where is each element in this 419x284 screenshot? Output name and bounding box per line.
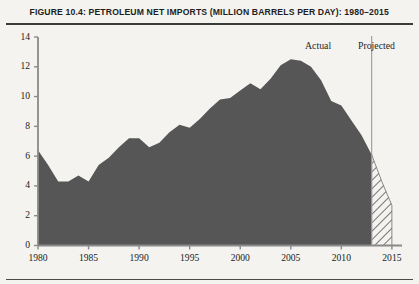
series-actual-area: [38, 59, 372, 245]
x-axis-tick-label: 1980: [18, 252, 58, 263]
y-axis-tick-label: 2: [4, 209, 30, 220]
x-axis-tick-label: 1985: [69, 252, 109, 263]
projected-region-label: Projected: [358, 40, 395, 51]
figure-container: FIGURE 10.4: PETROLEUM NET IMPORTS (MILL…: [0, 0, 419, 284]
y-axis-tick-label: 0: [4, 239, 30, 250]
actual-region-label: Actual: [305, 40, 331, 51]
y-axis-tick-label: 14: [4, 31, 30, 42]
series-projected-area: [372, 155, 392, 246]
y-axis-tick-label: 10: [4, 90, 30, 101]
x-axis-tick-label: 2005: [271, 252, 311, 263]
y-axis-tick-label: 6: [4, 150, 30, 161]
chart-series-group: [38, 59, 392, 245]
x-axis-tick-label: 2000: [220, 252, 260, 263]
x-axis-tick-label: 1995: [170, 252, 210, 263]
x-axis-tick-label: 2010: [321, 252, 361, 263]
x-axis-tick-label: 2015: [372, 252, 412, 263]
y-axis-tick-label: 12: [4, 60, 30, 71]
x-axis-tick-label: 1990: [119, 252, 159, 263]
y-axis-tick-label: 4: [4, 179, 30, 190]
plot-area: 02468101214 1980198519901995200020052010…: [0, 0, 419, 284]
area-chart-svg: [0, 0, 419, 284]
y-axis-tick-label: 8: [4, 120, 30, 131]
footer-divider-rule: [6, 279, 413, 280]
